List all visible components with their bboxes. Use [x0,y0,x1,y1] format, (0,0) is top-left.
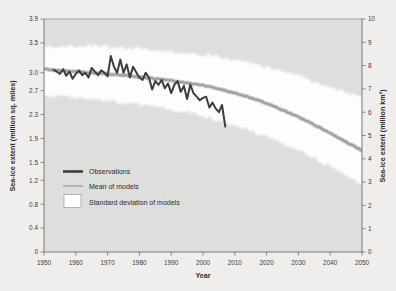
y-axis-right-title: Sea-ice extent (million km²) [378,89,387,183]
tick-label: 2.7 [29,87,38,94]
tick-label: 5 [368,132,372,139]
legend-label-mean-of-models: Mean of models [89,183,139,190]
tick-label: 2050 [355,259,370,266]
tick-label: 3.9 [29,15,38,22]
tick-label: 2.3 [29,111,38,118]
tick-label: 2000 [196,259,211,266]
tick-label: 3 [368,178,372,185]
tick-label: 0.8 [29,201,38,208]
tick-label: 8 [368,62,372,69]
tick-label: 2010 [228,259,243,266]
tick-label: 3.5 [29,39,38,46]
tick-label: 0 [34,248,38,255]
figure-root: 00.40.81.21.51.92.32.73.03.53.9 01234567… [0,0,396,291]
y-axis-left-title: Sea-ice extent (million sq. miles) [8,80,17,192]
tick-label: 2030 [291,259,306,266]
legend-label-observations: Observations [89,168,131,175]
tick-label: 9 [368,39,372,46]
tick-label: 3.0 [29,69,38,76]
tick-label: 1.2 [29,177,38,184]
tick-label: 1.9 [29,135,38,142]
tick-label: 0.4 [29,224,38,231]
sea-ice-extent-chart: 00.40.81.21.51.92.32.73.03.53.9 01234567… [0,0,396,291]
tick-label: 10 [368,15,376,22]
legend-label-standard-deviation: Standard deviation of models [89,199,180,206]
tick-label: 2040 [323,259,338,266]
legend-swatch-standard-deviation [64,195,81,208]
tick-label: 1990 [164,259,179,266]
tick-label: 1.5 [29,159,38,166]
tick-label: 1 [368,225,372,232]
tick-label: 6 [368,109,372,116]
tick-label: 2 [368,202,372,209]
tick-label: 1980 [132,259,147,266]
tick-label: 0 [368,248,372,255]
tick-label: 1970 [100,259,115,266]
tick-label: 2020 [259,259,274,266]
tick-label: 1950 [37,259,52,266]
tick-label: 7 [368,85,372,92]
tick-label: 4 [368,155,372,162]
x-axis-title: Year [195,271,210,280]
tick-label: 1960 [69,259,84,266]
